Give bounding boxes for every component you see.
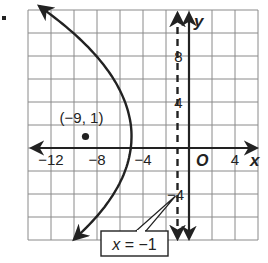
focus-dot [82,133,89,140]
x-tick-label: −12 [38,151,63,168]
axis-labels: −12−8−4484−4xyO [38,12,261,203]
x-tick-label: −4 [134,151,151,168]
x-axis-label: x [249,151,261,170]
callout-pointer [136,196,176,231]
focus-label: (−9, 1) [60,109,104,126]
axes [32,14,256,238]
y-tick-label: 4 [174,94,182,111]
coordinate-graph: −12−8−4484−4xyO (−9, 1) x = −1 [0,0,268,263]
directrix-callout: x = −1 [101,196,176,256]
y-axis-label: y [193,12,205,31]
x-tick-label: −8 [88,151,105,168]
y-tick-label: 8 [174,48,182,65]
y-tick-label: −4 [167,186,184,203]
origin-label: O [196,152,209,169]
x-tick-label: 4 [231,151,239,168]
directrix-label: x = −1 [111,236,157,253]
